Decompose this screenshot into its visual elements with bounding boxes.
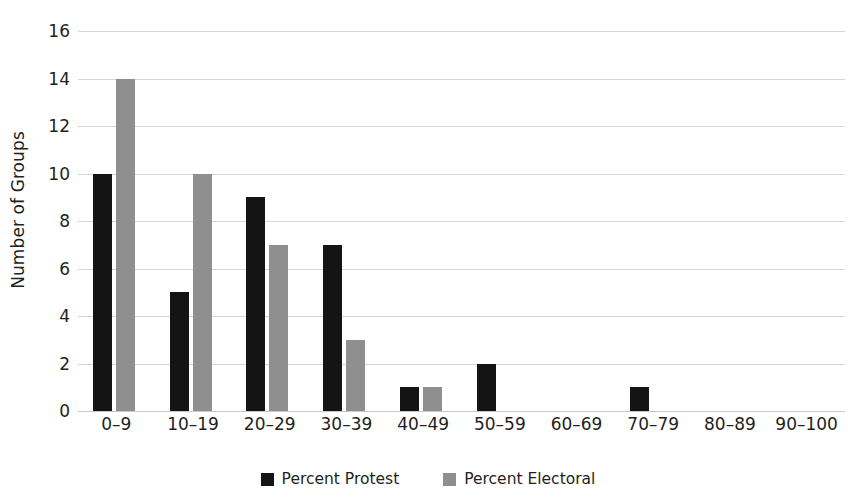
bar-group [768,31,845,411]
x-tick-label: 80–89 [692,416,769,433]
legend-swatch-electoral [443,473,456,486]
bar-protest [246,197,265,411]
legend-item[interactable]: Percent Electoral [443,470,595,488]
y-tick-label-8: 8 [0,213,70,230]
bar-electoral [116,79,135,412]
x-tick-label: 20–29 [231,416,308,433]
bar-protest [630,387,649,411]
bar-group [462,31,539,411]
x-tick-label: 10–19 [155,416,232,433]
y-tick-label-10: 10 [0,165,70,182]
legend-swatch-protest [261,473,274,486]
y-tick-label-0: 0 [0,403,70,420]
y-tick-label-4: 4 [0,308,70,325]
y-tick-label-12: 12 [0,118,70,135]
bar-chart: Number of Groups 1614121086420 0–910–192… [0,0,856,499]
plot-area [78,31,845,411]
y-axis-tick-labels: 1614121086420 [0,31,70,411]
x-tick-label: 70–79 [615,416,692,433]
bar-group [538,31,615,411]
x-tick-label: 30–39 [308,416,385,433]
x-tick-label: 50–59 [462,416,539,433]
x-tick-label: 40–49 [385,416,462,433]
bar-group [692,31,769,411]
chart-legend: Percent ProtestPercent Electoral [0,466,856,492]
bar-protest [170,292,189,411]
bar-protest [93,174,112,412]
bar-group [308,31,385,411]
x-tick-label: 90–100 [768,416,845,433]
y-tick-label-2: 2 [0,355,70,372]
bar-group [385,31,462,411]
bar-electoral [346,340,365,411]
legend-item[interactable]: Percent Protest [261,470,400,488]
bar-electoral [423,387,442,411]
bar-group [155,31,232,411]
bar-protest [477,364,496,412]
gridline-0 [78,411,845,412]
bar-protest [323,245,342,411]
y-tick-label-14: 14 [0,70,70,87]
bar-electoral [269,245,288,411]
bar-electoral [193,174,212,412]
bar-group [615,31,692,411]
bar-group [231,31,308,411]
bars-layer [78,31,845,411]
x-tick-label: 60–69 [538,416,615,433]
y-tick-label-6: 6 [0,260,70,277]
x-tick-label: 0–9 [78,416,155,433]
bar-protest [400,387,419,411]
legend-item-label: Percent Protest [282,470,400,488]
legend-item-label: Percent Electoral [464,470,595,488]
x-axis-tick-labels: 0–910–1920–2930–3940–4950–5960–6970–7980… [78,416,845,446]
y-tick-label-16: 16 [0,23,70,40]
bar-group [78,31,155,411]
